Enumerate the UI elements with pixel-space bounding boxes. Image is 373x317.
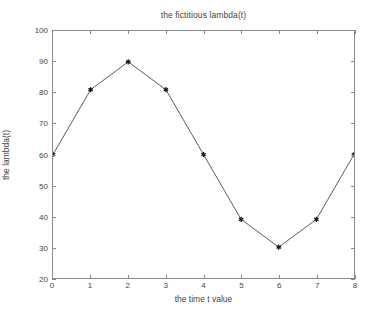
- x-tick-mark-top: [166, 30, 167, 34]
- y-tick-mark: [52, 155, 56, 156]
- plot-canvas: [53, 31, 354, 278]
- x-tick-mark: [128, 275, 129, 279]
- y-tick-mark-right: [351, 123, 355, 124]
- y-tick-mark-right: [351, 217, 355, 218]
- x-tick-mark: [355, 275, 356, 279]
- y-tick-label: 100: [18, 26, 48, 35]
- x-axis-label: the time t value: [52, 294, 355, 304]
- y-tick-label: 50: [18, 181, 48, 190]
- x-tick-mark: [204, 275, 205, 279]
- x-tick-mark-top: [204, 30, 205, 34]
- y-tick-mark: [52, 186, 56, 187]
- x-tick-mark: [52, 275, 53, 279]
- y-tick-label: 60: [18, 150, 48, 159]
- y-tick-label: 40: [18, 212, 48, 221]
- x-tick-mark: [241, 275, 242, 279]
- y-tick-mark: [52, 279, 56, 280]
- y-tick-mark-right: [351, 92, 355, 93]
- x-tick-label: 1: [78, 281, 102, 290]
- x-tick-label: 8: [343, 281, 367, 290]
- plot-area: [52, 30, 355, 279]
- y-tick-mark-right: [351, 248, 355, 249]
- y-tick-label: 70: [18, 119, 48, 128]
- x-tick-label: 3: [154, 281, 178, 290]
- y-tick-mark-right: [351, 279, 355, 280]
- x-tick-mark-top: [355, 30, 356, 34]
- x-tick-mark-top: [128, 30, 129, 34]
- x-tick-mark-top: [317, 30, 318, 34]
- x-tick-label: 2: [116, 281, 140, 290]
- chart-figure: the fictitious lambda(t) 203040506070809…: [0, 0, 373, 317]
- x-tick-mark: [317, 275, 318, 279]
- y-tick-mark-right: [351, 155, 355, 156]
- y-tick-mark-right: [351, 61, 355, 62]
- data-point-marker: [126, 59, 130, 64]
- x-tick-mark: [90, 275, 91, 279]
- x-tick-label: 5: [229, 281, 253, 290]
- x-tick-mark-top: [241, 30, 242, 34]
- x-tick-mark-top: [279, 30, 280, 34]
- data-point-marker: [277, 245, 281, 250]
- y-tick-mark: [52, 248, 56, 249]
- x-tick-mark: [166, 275, 167, 279]
- y-tick-mark-right: [351, 186, 355, 187]
- y-tick-mark: [52, 61, 56, 62]
- x-tick-label: 7: [305, 281, 329, 290]
- y-tick-label: 30: [18, 243, 48, 252]
- x-tick-label: 4: [192, 281, 216, 290]
- x-tick-mark: [279, 275, 280, 279]
- y-tick-mark: [52, 217, 56, 218]
- chart-title: the fictitious lambda(t): [52, 10, 355, 20]
- y-tick-mark: [52, 123, 56, 124]
- y-tick-label: 80: [18, 88, 48, 97]
- y-tick-label: 90: [18, 57, 48, 66]
- y-axis-label: the lambda(t): [1, 130, 11, 180]
- y-tick-mark: [52, 92, 56, 93]
- x-tick-mark-top: [52, 30, 53, 34]
- x-tick-label: 6: [267, 281, 291, 290]
- x-tick-mark-top: [90, 30, 91, 34]
- x-tick-label: 0: [40, 281, 64, 290]
